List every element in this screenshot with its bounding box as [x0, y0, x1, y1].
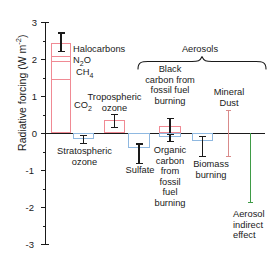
label-biomass-burning: Biomass burning	[188, 159, 234, 180]
errorbar-cap-bottom-stratospheric-ozone	[80, 143, 87, 144]
errorbar-cap-top-stratospheric-ozone	[80, 135, 87, 136]
label-aerosol-indirect-line2: indirect	[233, 220, 274, 231]
label-n2o-pre: N	[73, 55, 80, 65]
errorbar-cap-top-greenhouse-gases	[58, 32, 65, 33]
y-ticklabel-1: 1	[21, 91, 37, 102]
errorbar-cap-top-black-carbon	[167, 118, 174, 119]
errorbar-greenhouse-gases	[60, 32, 61, 50]
y-tick-m2	[41, 207, 46, 208]
label-ch4-pre: CH	[76, 67, 89, 77]
errorbar-cap-bottom-organic-carbon	[167, 141, 174, 142]
label-mineral-dust-line2: Dust	[207, 98, 251, 109]
label-black-carbon: Black carbon from fossil fuel burning	[142, 64, 198, 106]
errorbar-cap-top-biomass-burning	[199, 136, 206, 137]
range-line-mineral-dust	[228, 110, 229, 156]
errorbar-biomass-burning	[202, 136, 203, 156]
label-black-carbon-line2: carbon from	[142, 75, 198, 86]
errorbar-cap-bottom-biomass-burning	[199, 156, 206, 157]
label-halocarbons: Halocarbons	[73, 44, 125, 55]
y-ticklabel-0: 0	[21, 128, 37, 139]
label-organic-carbon: Organic carbon from fossil fuel burning	[149, 145, 191, 209]
label-black-carbon-line1: Black	[142, 64, 198, 75]
label-ch4-sub: 4	[89, 72, 93, 79]
errorbar-cap-top-sulfate	[136, 143, 143, 144]
y-ticklabel-m2: -2	[18, 202, 34, 213]
label-organic-carbon-line4: fossil	[149, 177, 191, 188]
y-ticklabel-m3: -3	[18, 239, 34, 250]
errorbar-cap-bottom-sulfate	[136, 163, 143, 164]
label-tropospheric-ozone-line2: ozone	[86, 103, 143, 114]
label-stratospheric-ozone: Stratospheric ozone	[55, 146, 114, 167]
label-aerosol-indirect-line3: effect	[233, 230, 274, 241]
label-tropospheric-ozone-line1: Tropospheric	[86, 92, 143, 103]
errorbar-tropospheric-ozone	[114, 114, 115, 127]
label-organic-carbon-line1: Organic	[149, 145, 191, 156]
y-tick-1	[41, 96, 46, 97]
plot-area: Radiative forcing (W m-2) 3 2 1 0 -1 -2 …	[0, 0, 274, 268]
y-tick-0p5	[43, 115, 46, 116]
label-mineral-dust-line1: Mineral	[207, 87, 251, 98]
label-mineral-dust: Mineral Dust	[207, 87, 251, 108]
label-organic-carbon-line5: fuel	[149, 187, 191, 198]
y-tick-0	[41, 133, 46, 134]
label-n2o-post: O	[84, 55, 91, 65]
y-ticklabel-2: 2	[21, 54, 37, 65]
label-ch4: CH4	[76, 67, 93, 81]
bar-segment-divider-n2o-halocarbons	[51, 56, 71, 57]
errorbar-cap-top-tropospheric-ozone	[111, 114, 118, 115]
y-tick-m3	[41, 244, 46, 245]
errorbar-cap-bottom-tropospheric-ozone	[111, 127, 118, 128]
errorbar-sulfate	[138, 143, 139, 162]
bar-segment-divider-co2-ch4	[51, 79, 71, 80]
label-aerosol-indirect-effect: Aerosol indirect effect	[233, 209, 274, 241]
range-cap-top-mineral-dust	[226, 110, 231, 111]
bar-segment-divider-ch4-n2o	[51, 61, 71, 62]
y-tick-m1	[41, 170, 46, 171]
label-aerosol-indirect-line1: Aerosol	[233, 209, 274, 220]
label-organic-carbon-line3: from	[149, 166, 191, 177]
y-tick-2	[41, 59, 46, 60]
aerosols-group-label: Aerosols	[178, 44, 222, 55]
label-organic-carbon-line6: burning	[149, 198, 191, 209]
errorbar-black-carbon	[169, 118, 170, 134]
range-cap-bottom-aerosol-indirect-effect	[248, 202, 253, 203]
y-tick-m2p5	[43, 226, 46, 227]
label-black-carbon-line4: burning	[142, 96, 198, 107]
label-stratospheric-ozone-line1: Stratospheric	[55, 146, 114, 157]
y-ticklabel-m1: -1	[18, 165, 34, 176]
label-biomass-burning-line1: Biomass	[188, 159, 234, 170]
y-ticklabel-3: 3	[21, 17, 37, 28]
y-tick-1p5	[43, 78, 46, 79]
label-biomass-burning-line2: burning	[188, 170, 234, 181]
range-line-aerosol-indirect-effect	[250, 133, 251, 203]
y-axis-title-end: )	[16, 35, 28, 39]
y-tick-3	[41, 22, 46, 23]
errorbar-organic-carbon	[169, 134, 170, 141]
y-axis-title-exponent: -2	[14, 38, 23, 45]
label-tropospheric-ozone: Tropospheric ozone	[86, 92, 143, 113]
label-organic-carbon-line2: carbon	[149, 156, 191, 167]
errorbar-cap-bottom-greenhouse-gases	[58, 51, 65, 52]
label-black-carbon-line3: fossil fuel	[142, 85, 198, 96]
label-stratospheric-ozone-line2: ozone	[55, 157, 114, 168]
range-cap-bottom-mineral-dust	[226, 156, 231, 157]
radiative-forcing-chart: Radiative forcing (W m-2) 3 2 1 0 -1 -2 …	[0, 0, 274, 268]
y-tick-m1p5	[43, 189, 46, 190]
y-tick-m0p5	[43, 152, 46, 153]
y-tick-2p5	[43, 41, 46, 42]
